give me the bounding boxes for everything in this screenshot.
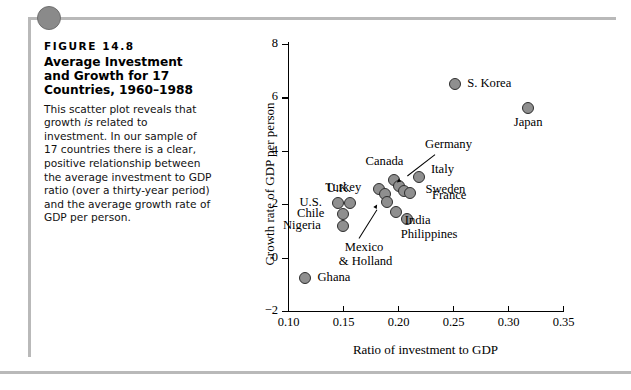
point-label-mexico: Mexico	[345, 241, 383, 254]
figure-number: FIGURE 14.8	[44, 40, 212, 52]
point-label-u-s-: U.S.	[300, 196, 322, 209]
data-point-u-s-[interactable]	[332, 197, 344, 209]
data-point-s-korea[interactable]	[449, 78, 461, 90]
point-label-canada: Canada	[366, 155, 404, 168]
y-tick-label: 6	[272, 89, 278, 104]
point-label-nigeria: Nigeria	[283, 219, 321, 232]
data-point-italy[interactable]	[413, 171, 425, 183]
point-label-ghana: Ghana	[318, 271, 351, 284]
data-point-holland[interactable]	[381, 196, 393, 208]
y-tick: 6	[282, 97, 288, 98]
data-point-u-k-[interactable]	[344, 197, 356, 209]
x-tick-label: 0.20	[388, 315, 410, 330]
y-tick: 8	[282, 44, 288, 45]
y-tick-mark	[282, 258, 288, 259]
point-label-turkey: Turkey	[325, 181, 361, 194]
point-label-chile: Chile	[297, 207, 324, 220]
x-tick: 0.20	[398, 306, 399, 312]
y-tick-mark	[282, 97, 288, 98]
x-tick-mark	[563, 306, 564, 312]
x-tick: 0.10	[288, 306, 289, 312]
figure-frame: FIGURE 14.8 Average Investment and Growt…	[0, 0, 631, 390]
y-tick-label: 8	[272, 36, 278, 51]
y-tick-mark	[282, 204, 288, 205]
x-tick-mark	[288, 306, 289, 312]
y-tick: 2	[282, 204, 288, 205]
x-axis-title: Ratio of investment to GDP	[288, 342, 563, 358]
x-tick-label: 0.30	[498, 315, 520, 330]
point-label-japan: Japan	[514, 116, 543, 129]
data-point-nigeria[interactable]	[337, 220, 349, 232]
x-tick-label: 0.25	[443, 315, 465, 330]
y-tick-mark	[282, 44, 288, 45]
x-tick-mark	[343, 306, 344, 312]
point-label-s-korea: S. Korea	[467, 77, 511, 90]
y-tick: 4	[282, 151, 288, 152]
y-tick-label: 2	[272, 196, 278, 211]
point-label-india: India	[405, 214, 431, 227]
figure-description: This scatter plot reveals that growth is…	[44, 103, 212, 225]
x-tick-mark	[508, 306, 509, 312]
x-tick-label: 0.15	[333, 315, 355, 330]
point-label-germany: Germany	[425, 138, 472, 151]
x-tick: 0.30	[508, 306, 509, 312]
x-axis-line	[288, 311, 563, 312]
y-axis-line	[288, 42, 289, 312]
frame-bottom-rule	[0, 371, 631, 374]
figure-title: Average Investment and Growth for 17 Cou…	[44, 55, 212, 98]
data-point-ghana[interactable]	[299, 272, 311, 284]
point-label-philippines: Philippines	[401, 228, 458, 241]
y-tick-label: 4	[272, 143, 278, 158]
x-tick-label: 0.10	[278, 315, 300, 330]
y-tick-label: 0	[272, 250, 278, 265]
x-tick-mark	[453, 306, 454, 312]
point-label-holland: & Holland	[339, 255, 393, 268]
x-tick: 0.35	[563, 306, 564, 312]
point-label-france: France	[432, 189, 466, 202]
x-tick: 0.25	[453, 306, 454, 312]
y-tick-label: −2	[265, 303, 278, 318]
frame-top-rule	[28, 17, 616, 20]
data-point-france[interactable]	[404, 187, 416, 199]
data-point-india[interactable]	[390, 206, 402, 218]
point-label-italy: Italy	[431, 163, 454, 176]
mexico-holland-leader-line	[358, 210, 377, 239]
x-tick: 0.15	[343, 306, 344, 312]
data-point-japan[interactable]	[522, 102, 534, 114]
mexico-holland-leader-arrowhead	[373, 203, 379, 209]
caption-text-italic: is	[84, 116, 92, 128]
x-tick-mark	[398, 306, 399, 312]
data-point-chile[interactable]	[337, 208, 349, 220]
figure-caption: FIGURE 14.8 Average Investment and Growt…	[44, 40, 212, 225]
scatter-plot: Growth rate of GDP per person Ratio of i…	[232, 24, 612, 364]
caption-text-part2: related to investment. In our sample of …	[44, 116, 211, 223]
y-tick: 0	[282, 258, 288, 259]
x-tick-label: 0.35	[553, 315, 575, 330]
header-bullet-icon	[37, 6, 61, 30]
y-tick-mark	[282, 151, 288, 152]
frame-left-rule	[28, 17, 31, 357]
